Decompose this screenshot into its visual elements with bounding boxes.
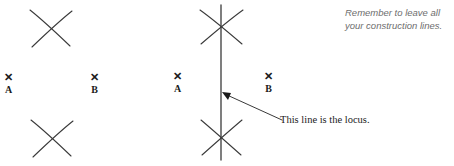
point-mark-icon: ✕: [260, 71, 277, 82]
locus-annotation-arrow-shaft: [227, 95, 282, 120]
point-label-a: A: [169, 84, 186, 94]
note-line-1: Remember to leave all: [345, 6, 442, 19]
construction-lines-note: Remember to leave all your construction …: [345, 6, 442, 32]
point-label-b: B: [260, 84, 277, 94]
left-diagram-arcs: [30, 10, 73, 157]
right-point-b: ✕ B: [260, 71, 277, 94]
point-label-b: B: [86, 85, 103, 95]
right-point-a: ✕ A: [169, 71, 186, 94]
point-mark-icon: ✕: [169, 71, 186, 82]
locus-annotation-arrowhead-icon: [222, 92, 231, 100]
point-mark-icon: ✕: [86, 72, 103, 83]
right-lower-arc-from-b-icon: [202, 120, 242, 155]
left-point-b: ✕ B: [86, 72, 103, 95]
locus-caption: This line is the locus.: [280, 114, 370, 125]
left-point-a: ✕ A: [0, 72, 17, 95]
lower-arc-from-a-icon: [31, 120, 71, 156]
geometry-figure: ✕ A ✕ B ✕ A ✕ B This line is the locus. …: [0, 0, 454, 166]
point-label-a: A: [0, 85, 17, 95]
point-mark-icon: ✕: [0, 72, 17, 83]
upper-arc-from-a-icon: [30, 10, 70, 46]
note-line-2: your construction lines.: [345, 19, 442, 32]
